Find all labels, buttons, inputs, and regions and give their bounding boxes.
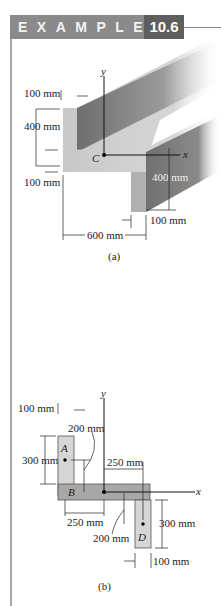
example-number: 10.6: [144, 15, 184, 39]
dim-250-left: 250 mm: [67, 516, 104, 528]
part-b-label: B: [68, 486, 75, 498]
dim-100-top: 100 mm: [24, 87, 61, 99]
dim-600: 600 mm: [87, 229, 124, 241]
dim-300-right: 300 mm: [159, 517, 196, 529]
axis-x-label-b: x: [195, 485, 201, 497]
dim-100-right: 100 mm: [150, 214, 187, 226]
part-a-label: A: [60, 442, 68, 454]
figure-a: y x C 100 mm 400 mm 100 mm 400 mm 100 mm…: [0, 40, 221, 340]
axis-y-label-b: y: [100, 387, 106, 399]
dim-400-right: 400 mm: [152, 171, 189, 183]
caption-b: (b): [98, 580, 111, 593]
dim-200-d: 200 mm: [93, 532, 130, 544]
dim-100-b-top: 100 mm: [18, 402, 55, 414]
figure-b: y x A B D 100 mm 200 mm 300 mm 250 mm 25…: [0, 376, 221, 606]
example-header: EXAMPLE 10.6: [10, 15, 184, 39]
dim-400-left: 400 mm: [24, 120, 61, 132]
axis-y-label: y: [100, 65, 106, 77]
dim-300-left: 300 mm: [22, 454, 59, 466]
example-label: EXAMPLE: [10, 15, 144, 39]
axis-x-label: x: [182, 148, 188, 160]
dim-100-bottom: 100 mm: [24, 176, 61, 188]
dim-200-a: 200 mm: [68, 422, 105, 434]
caption-a: (a): [108, 250, 121, 263]
dim-100-b-right: 100 mm: [153, 555, 190, 567]
centroid-label: C: [92, 152, 100, 164]
dim-250-right: 250 mm: [107, 456, 144, 468]
header-rule: [184, 27, 221, 28]
part-d-label: D: [137, 531, 146, 543]
